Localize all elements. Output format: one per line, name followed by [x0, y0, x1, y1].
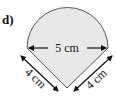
- right-side-label: 4 cm: [83, 65, 110, 92]
- composite-shape-figure: 5 cm 4 cm 4 cm: [0, 0, 117, 97]
- diameter-label: 5 cm: [55, 41, 79, 55]
- left-side-label: 4 cm: [22, 65, 49, 92]
